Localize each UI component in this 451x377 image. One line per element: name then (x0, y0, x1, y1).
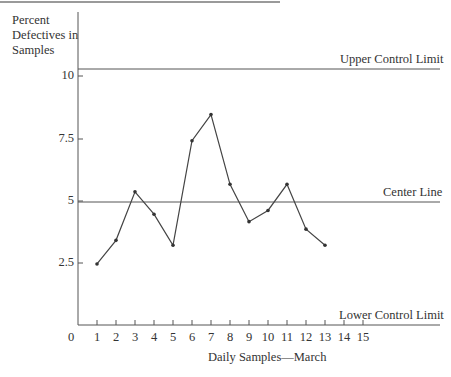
data-point (323, 244, 327, 248)
data-points (95, 113, 327, 266)
data-point (95, 262, 99, 266)
data-series-line (97, 115, 325, 264)
data-point (266, 209, 270, 213)
axes (78, 12, 440, 325)
data-point (152, 212, 156, 216)
data-point (228, 183, 232, 187)
data-point (247, 220, 251, 224)
data-point (114, 239, 118, 243)
x-tick-marks (97, 320, 363, 325)
chart-plot (0, 0, 451, 377)
data-point (285, 183, 289, 187)
data-point (171, 244, 175, 248)
data-point (209, 113, 213, 117)
data-point (190, 139, 194, 143)
data-point (133, 190, 137, 194)
data-point (304, 227, 308, 231)
